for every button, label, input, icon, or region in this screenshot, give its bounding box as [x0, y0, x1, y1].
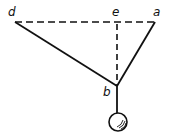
label-b: b — [103, 85, 111, 99]
string-d-b — [15, 22, 117, 86]
label-a: a — [153, 5, 160, 19]
pendulum-diagram: d e a b — [0, 0, 169, 137]
string-a-b — [117, 22, 155, 86]
label-d: d — [8, 5, 16, 19]
label-e: e — [112, 5, 119, 19]
